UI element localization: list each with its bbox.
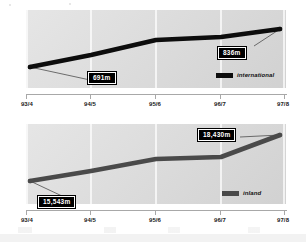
legend-international: international [216, 72, 274, 78]
x-label-4: 97/8 [277, 217, 289, 223]
x-label-1: 94/5 [84, 101, 96, 107]
tick-mark [155, 211, 156, 215]
x-label-0: 93/4 [21, 217, 33, 223]
legend-label-international: international [237, 72, 274, 78]
x-label-4: 97/8 [277, 101, 289, 107]
marker-end-international [278, 27, 282, 31]
figure-page: international 691m 836m 93/4 94/5 95/6 9… [0, 0, 306, 242]
chart-international: international 691m 836m 93/4 94/5 95/6 9… [0, 4, 306, 118]
x-label-2: 95/6 [149, 101, 161, 107]
callout-inland-end: 18,430m [198, 129, 235, 141]
x-label-0: 93/4 [21, 101, 33, 107]
callout-international-end: 836m [218, 47, 246, 59]
x-label-3: 96/7 [214, 101, 226, 107]
x-label-2: 95/6 [149, 217, 161, 223]
series-line-inland [30, 135, 280, 181]
x-ticks-international [26, 95, 286, 99]
tick-mark [284, 211, 285, 215]
tick-mark [90, 211, 91, 215]
leader-lines-inland [30, 135, 280, 196]
tick-mark [26, 95, 27, 99]
marker-start-international [28, 65, 32, 69]
footer-band [0, 234, 306, 242]
tick-mark [26, 211, 27, 215]
x-axis-labels-international: 93/4 94/5 95/6 96/7 97/8 [0, 101, 306, 113]
x-label-3: 96/7 [214, 217, 226, 223]
chart-inland: inland 15,543m 18,430m 93/4 94/5 95/6 96… [0, 120, 306, 230]
marker-end-inland [278, 133, 282, 137]
callout-inland-start: 15,543m [38, 196, 75, 208]
tick-mark [220, 211, 221, 215]
legend-swatch-icon [216, 73, 233, 78]
tick-mark [155, 95, 156, 99]
legend-label-inland: inland [243, 190, 261, 196]
scan-artifact-bottom [18, 227, 288, 233]
legend-inland: inland [222, 190, 261, 196]
tick-mark [90, 95, 91, 99]
x-ticks-inland [26, 211, 286, 215]
plot-area-inland: inland [26, 124, 286, 204]
marker-start-inland [28, 179, 32, 183]
legend-swatch-icon [222, 191, 239, 196]
tick-mark [220, 95, 221, 99]
plot-area-international: international [26, 10, 286, 88]
x-label-1: 94/5 [84, 217, 96, 223]
tick-mark [284, 95, 285, 99]
callout-international-start: 691m [88, 72, 116, 84]
